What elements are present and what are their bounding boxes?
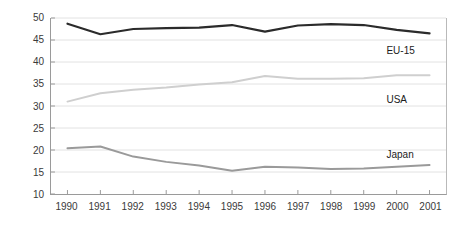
x-axis-tick-label: 1999 [353, 201, 375, 212]
series-label-eu-15: EU-15 [386, 45, 414, 56]
x-axis-tick-label: 1990 [55, 201, 77, 212]
x-axis-tick-label: 1993 [155, 201, 177, 212]
x-axis-tick-label: 2000 [386, 201, 408, 212]
line-chart: 101520253035404550 EU-15USAJapan 1990199… [0, 0, 470, 229]
y-axis-tick-label: 20 [33, 146, 44, 156]
y-axis-tick-label: 10 [33, 190, 44, 200]
x-axis-tick-label: 1992 [122, 201, 144, 212]
x-axis-tick-label: 1995 [221, 201, 243, 212]
series-label-japan: Japan [386, 149, 413, 160]
x-axis-tick-label: 1991 [89, 201, 111, 212]
x-axis-tick-label: 1997 [287, 201, 309, 212]
y-axis-label-group: 101520253035404550 [0, 0, 44, 229]
x-axis-tick-label: 2001 [419, 201, 441, 212]
x-axis-tick-label: 1998 [320, 201, 342, 212]
y-axis-tick-label: 45 [33, 35, 44, 45]
series-label-usa: USA [386, 94, 407, 105]
x-axis-tick-label: 1996 [254, 201, 276, 212]
y-axis-tick-label: 25 [33, 124, 44, 134]
y-axis-tick-label: 35 [33, 79, 44, 89]
x-axis-label-group: 1990199119921993199419951996199719981999… [0, 201, 470, 217]
x-axis-tick-label: 1994 [188, 201, 210, 212]
y-axis-tick-label: 50 [33, 13, 44, 23]
y-axis-tick-label: 30 [33, 102, 44, 112]
y-axis-tick-label: 15 [33, 168, 44, 178]
y-axis-tick-label: 40 [33, 57, 44, 67]
